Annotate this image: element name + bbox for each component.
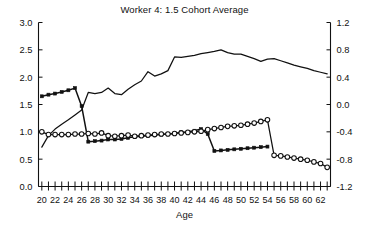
- marker-filled-marker-line: [253, 146, 256, 149]
- marker-open-circle-line: [66, 132, 71, 137]
- marker-filled-marker-line: [80, 105, 83, 108]
- marker-filled-marker-line: [93, 140, 96, 143]
- marker-open-circle-line: [53, 132, 58, 137]
- marker-open-circle-line: [318, 161, 323, 166]
- y-tick-label-left: 3.0: [20, 18, 33, 28]
- marker-filled-marker-line: [74, 87, 77, 90]
- marker-filled-marker-line: [206, 133, 209, 136]
- y-tick-label-right: -0.4: [337, 127, 353, 137]
- marker-filled-marker-line: [40, 95, 43, 98]
- y-tick-label-left: 0.5: [20, 155, 33, 165]
- marker-open-circle-line: [265, 118, 270, 123]
- marker-open-circle-line: [199, 129, 204, 134]
- x-tick-label: 34: [130, 195, 140, 205]
- marker-filled-marker-line: [233, 148, 236, 151]
- x-tick-label: 30: [103, 195, 113, 205]
- y-tick-label-right: -0.8: [337, 155, 353, 165]
- marker-open-circle-line: [285, 155, 290, 160]
- marker-open-circle-line: [219, 125, 224, 130]
- marker-filled-marker-line: [220, 149, 223, 152]
- marker-open-circle-line: [205, 127, 210, 132]
- marker-open-circle-line: [192, 130, 197, 135]
- marker-open-circle-line: [86, 131, 91, 136]
- x-tick-label: 44: [196, 195, 206, 205]
- marker-open-circle-line: [40, 130, 45, 135]
- marker-open-circle-line: [225, 124, 230, 129]
- y-tick-label-right: 0.0: [337, 100, 350, 110]
- marker-filled-marker-line: [67, 89, 70, 92]
- marker-open-circle-line: [79, 132, 84, 137]
- x-tick-label: 26: [77, 195, 87, 205]
- marker-open-circle-line: [232, 124, 237, 129]
- x-tick-label: 32: [116, 195, 126, 205]
- marker-open-circle-line: [172, 131, 177, 136]
- marker-filled-marker-line: [87, 140, 90, 143]
- marker-open-circle-line: [292, 156, 297, 161]
- marker-open-circle-line: [152, 132, 157, 137]
- marker-filled-marker-line: [239, 147, 242, 150]
- x-tick-label: 28: [90, 195, 100, 205]
- marker-filled-marker-line: [226, 148, 229, 151]
- marker-open-circle-line: [239, 123, 244, 128]
- marker-filled-marker-line: [54, 92, 57, 95]
- y-tick-label-left: 2.5: [20, 45, 33, 55]
- x-tick-label: 24: [63, 195, 73, 205]
- y-tick-label-left: 0.0: [20, 182, 33, 192]
- x-tick-label: 38: [156, 195, 166, 205]
- y-tick-label-left: 1.0: [20, 127, 33, 137]
- x-tick-label: 60: [302, 195, 312, 205]
- x-tick-label: 46: [209, 195, 219, 205]
- marker-open-circle-line: [278, 154, 283, 159]
- marker-open-circle-line: [159, 132, 164, 137]
- series-path-filled-marker-line: [42, 88, 268, 151]
- marker-open-circle-line: [186, 130, 191, 135]
- x-tick-label: 52: [249, 195, 259, 205]
- x-axis-label: Age: [176, 209, 193, 220]
- marker-open-circle-line: [259, 119, 264, 124]
- chart-figure: Worker 4: 1.5 Cohort Average 0.00.51.01.…: [0, 0, 369, 234]
- marker-open-circle-line: [113, 134, 118, 139]
- marker-open-circle-line: [139, 133, 144, 138]
- marker-open-circle-line: [106, 133, 111, 138]
- x-tick-label: 58: [289, 195, 299, 205]
- marker-open-circle-line: [46, 132, 51, 137]
- y-tick-label-right: -1.2: [337, 182, 353, 192]
- y-tick-label-right: 0.8: [337, 45, 350, 55]
- marker-open-circle-line: [132, 134, 137, 139]
- marker-open-circle-line: [99, 131, 104, 136]
- marker-open-circle-line: [305, 158, 310, 163]
- marker-open-circle-line: [119, 133, 124, 138]
- chart-plot-area: 0.00.51.01.52.02.53.0-1.2-0.8-0.40.00.40…: [0, 0, 369, 234]
- marker-open-circle-line: [126, 133, 131, 138]
- marker-open-circle-line: [166, 132, 171, 137]
- x-tick-label: 50: [236, 195, 246, 205]
- x-tick-label: 42: [183, 195, 193, 205]
- y-tick-label-right: 0.4: [337, 73, 350, 83]
- series-path-open-circle-line: [42, 120, 327, 168]
- marker-open-circle-line: [93, 132, 98, 137]
- marker-open-circle-line: [146, 133, 151, 138]
- marker-open-circle-line: [312, 160, 317, 165]
- marker-filled-marker-line: [100, 139, 103, 142]
- x-tick-label: 48: [223, 195, 233, 205]
- y-tick-label-left: 1.5: [20, 100, 33, 110]
- marker-open-circle-line: [298, 157, 303, 162]
- x-tick-label: 22: [50, 195, 60, 205]
- y-tick-label-left: 2.0: [20, 73, 33, 83]
- x-tick-label: 62: [316, 195, 326, 205]
- x-tick-label: 54: [262, 195, 272, 205]
- marker-open-circle-line: [325, 165, 330, 170]
- marker-filled-marker-line: [266, 145, 269, 148]
- marker-open-circle-line: [252, 121, 257, 126]
- x-tick-label: 36: [143, 195, 153, 205]
- x-tick-label: 56: [276, 195, 286, 205]
- x-tick-label: 20: [37, 195, 47, 205]
- marker-open-circle-line: [245, 122, 250, 127]
- marker-open-circle-line: [272, 153, 277, 158]
- marker-filled-marker-line: [47, 93, 50, 96]
- marker-filled-marker-line: [246, 147, 249, 150]
- marker-open-circle-line: [73, 132, 78, 137]
- marker-filled-marker-line: [259, 146, 262, 149]
- marker-open-circle-line: [212, 126, 217, 131]
- marker-open-circle-line: [179, 131, 184, 136]
